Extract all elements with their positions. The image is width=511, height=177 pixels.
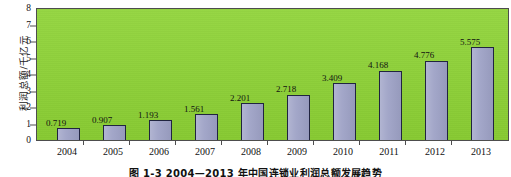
x-tick-label-2006: 2006 (136, 146, 182, 157)
y-tick-label: 3 (9, 87, 31, 97)
y-tick-label: 5 (9, 54, 31, 64)
y-tick-label: 8 (9, 4, 31, 14)
bar-value-label-2011: 4.168 (356, 60, 400, 70)
bar-2005[interactable] (103, 125, 126, 140)
x-tick-mark (267, 141, 268, 145)
x-tick-label-2005: 2005 (90, 146, 136, 157)
bar-2008[interactable] (241, 103, 264, 140)
figure-caption: 图 1-3 2004—2013 年中国连锁业利润总额发展趋势 (0, 165, 511, 177)
x-tick-label-2011: 2011 (366, 146, 412, 157)
x-tick-mark (451, 141, 452, 145)
bar-2012[interactable] (425, 61, 448, 140)
x-tick-mark (405, 141, 406, 145)
x-tick-label-2012: 2012 (412, 146, 458, 157)
bar-2011[interactable] (379, 71, 402, 140)
y-tick-label: 4 (9, 70, 31, 80)
bar-2013[interactable] (471, 47, 494, 140)
bar-2006[interactable] (149, 120, 172, 140)
y-tick-label: 7 (9, 21, 31, 31)
bar-value-label-2004: 0.719 (34, 118, 78, 128)
y-tick-label: 6 (9, 37, 31, 47)
bar-2007[interactable] (195, 114, 218, 140)
x-tick-label-2004: 2004 (44, 146, 90, 157)
x-tick-mark (83, 141, 84, 145)
bar-2004[interactable] (57, 128, 80, 140)
bar-value-label-2010: 3.409 (310, 73, 354, 83)
x-tick-mark (221, 141, 222, 145)
x-tick-mark (175, 141, 176, 145)
y-tick-label: 0 (9, 136, 31, 146)
bar-value-label-2008: 2.201 (218, 93, 262, 103)
x-tick-label-2010: 2010 (320, 146, 366, 157)
x-tick-mark (313, 141, 314, 145)
x-tick-label-2009: 2009 (274, 146, 320, 157)
bar-value-label-2005: 0.907 (80, 115, 124, 125)
bar-value-label-2012: 4.776 (402, 50, 446, 60)
y-tick-label: 1 (9, 120, 31, 130)
x-tick-label-2013: 2013 (458, 146, 504, 157)
x-tick-mark (129, 141, 130, 145)
bar-value-label-2009: 2.718 (264, 84, 308, 94)
bar-value-label-2013: 5.575 (448, 37, 492, 47)
bar-2009[interactable] (287, 95, 310, 140)
bar-2010[interactable] (333, 83, 356, 140)
y-tick-label: 2 (9, 103, 31, 113)
bar-value-label-2006: 1.193 (126, 110, 170, 120)
x-tick-label-2007: 2007 (182, 146, 228, 157)
figure-container: 利润总额/千亿元 8 7 6 5 4 3 2 1 0 0.719 0.907 (0, 0, 511, 177)
x-tick-mark (359, 141, 360, 145)
bar-value-label-2007: 1.561 (172, 104, 216, 114)
x-tick-label-2008: 2008 (228, 146, 274, 157)
